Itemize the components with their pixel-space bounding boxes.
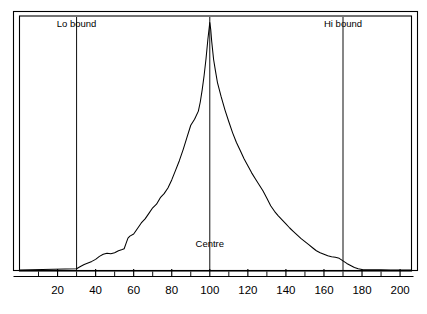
distribution-chart: Lo boundCentreHi bound 20406080100120140… [0, 0, 427, 314]
x-axis-tick-label-40: 40 [89, 284, 102, 296]
x-axis-tick-label-120: 120 [238, 284, 257, 296]
marker-label-centre: Centre [196, 238, 225, 249]
chart-container: Lo boundCentreHi bound 20406080100120140… [0, 0, 427, 314]
x-axis-tick-label-140: 140 [276, 284, 295, 296]
x-axis-tick-label-80: 80 [165, 284, 178, 296]
marker-label-lo-bound: Lo bound [57, 18, 97, 29]
x-axis-tick-label-100: 100 [200, 284, 219, 296]
chart-background [0, 0, 427, 314]
x-axis-tick-label-60: 60 [127, 284, 140, 296]
marker-label-hi-bound: Hi bound [324, 18, 362, 29]
x-axis-tick-label-20: 20 [51, 284, 64, 296]
x-axis-tick-label-200: 200 [390, 284, 409, 296]
x-axis-tick-label-160: 160 [314, 284, 333, 296]
x-axis-tick-label-180: 180 [352, 284, 371, 296]
